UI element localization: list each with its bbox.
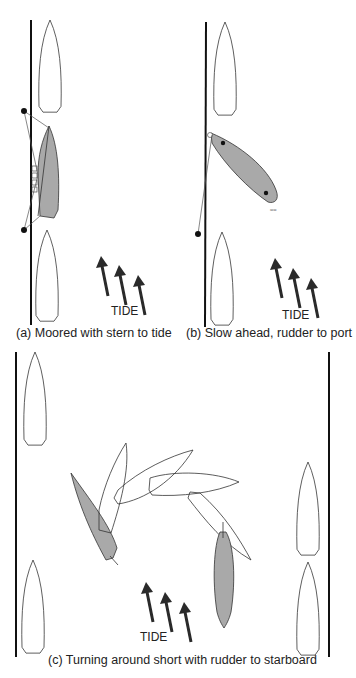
moored-boat <box>214 22 236 115</box>
own-boat-start <box>71 473 117 560</box>
tide-label: TIDE <box>282 308 309 322</box>
quay-wall <box>205 22 206 327</box>
moored-boat <box>36 230 58 321</box>
bollard-icon <box>195 231 201 237</box>
caption-b: (b) Slow ahead, rudder to port <box>186 326 352 340</box>
moored-boat <box>39 20 61 112</box>
caption-c: (c) Turning around short with rudder to … <box>48 653 317 667</box>
bollard-icon <box>21 227 27 233</box>
bollard-icon <box>21 108 27 114</box>
moored-boat <box>297 562 319 655</box>
moored-boat <box>211 232 233 325</box>
own-boat <box>38 126 59 218</box>
svg-text:≈≈: ≈≈ <box>270 207 277 213</box>
tide-label: TIDE <box>111 304 138 318</box>
moored-boat <box>297 462 319 555</box>
moored-boat <box>24 352 46 445</box>
panel-b-diagram: ≈≈ <box>195 22 318 327</box>
own-boat-end <box>214 532 234 628</box>
panel-a-diagram <box>21 20 145 325</box>
moored-boat <box>22 560 44 653</box>
tide-label: TIDE <box>140 630 167 644</box>
caption-a: (a) Moored with stern to tide <box>16 326 172 340</box>
panel-c-diagram <box>16 352 329 657</box>
